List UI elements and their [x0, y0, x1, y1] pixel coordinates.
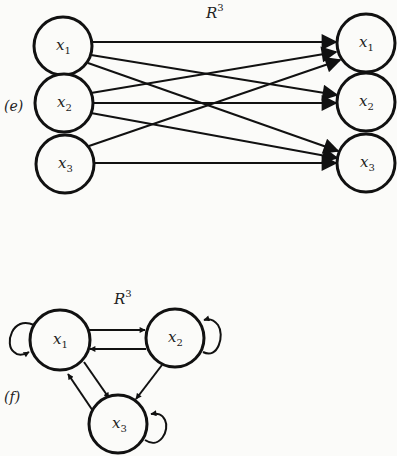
left-node-x1: x1 [34, 17, 92, 75]
figure-f: R3 (f) x1 x2 [4, 288, 221, 453]
figure-e: R3 (e) x1 x2 x3 x1 [4, 2, 395, 193]
node-f-x2: x2 [146, 309, 204, 367]
edge-e-x2-x3 [91, 113, 337, 158]
edge-e-x1-x2 [91, 55, 337, 95]
edge-f-x1-x3 [84, 362, 109, 398]
right-node-x2: x2 [337, 73, 395, 131]
figure-f-part-label: (f) [4, 389, 20, 405]
relation-diagrams: R3 (e) x1 x2 x3 x1 [0, 0, 397, 456]
edge-f-x3-x1 [68, 374, 93, 411]
node-f-x3: x3 [89, 395, 147, 453]
figure-e-title: R3 [205, 2, 224, 22]
edge-f-x2-x3 [136, 365, 162, 399]
left-node-x2: x2 [35, 74, 93, 132]
edge-f-x2-x2 [203, 319, 221, 353]
figure-f-title: R3 [113, 288, 132, 308]
right-node-x1: x1 [337, 14, 395, 72]
edge-e-x1-x3 [88, 63, 338, 151]
figure-e-part-label: (e) [4, 98, 23, 114]
figure-e-edges [88, 42, 340, 163]
edge-e-x2-x1 [91, 52, 336, 93]
right-node-x3: x3 [337, 134, 395, 192]
left-node-x3: x3 [36, 135, 94, 193]
node-f-x1: x1 [30, 310, 90, 370]
